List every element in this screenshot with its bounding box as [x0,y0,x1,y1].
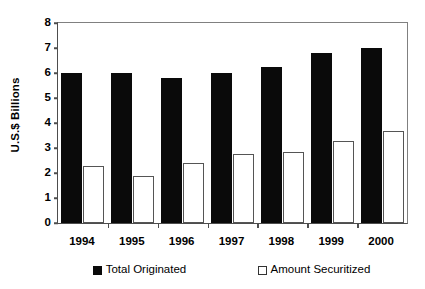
bar-1994-series-1 [83,166,104,224]
x-axis-tick-labels: 1994199519961997199819992000 [57,232,406,250]
bar-group [208,23,258,223]
bars-layer [58,23,407,223]
x-axis-tick-mark [357,223,359,228]
bar-group [108,23,158,223]
y-axis-tick-label: 4 [0,117,58,129]
y-axis-tick-label: 6 [0,67,58,79]
y-axis-tick-label: 5 [0,92,58,104]
bar-group [357,23,407,223]
x-axis-tick-mark [208,223,210,228]
y-axis-tick-label: 2 [0,167,58,179]
x-axis-tick-mark [307,223,309,228]
x-axis-tick-label: 1999 [306,232,356,250]
bar-1997-series-0 [211,73,232,223]
bar-group [307,23,357,223]
x-axis-tick-label: 1995 [107,232,157,250]
y-axis-tick-label: 0 [0,217,58,229]
bar-1997-series-1 [233,154,254,223]
bar-group [58,23,108,223]
x-axis-tick-label: 2000 [356,232,406,250]
x-axis-tick-label: 1994 [57,232,107,250]
x-axis-tick-label: 1998 [256,232,306,250]
x-axis-tick-mark [158,223,160,228]
bar-1999-series-1 [333,141,354,224]
legend-item-label: Total Originated [106,264,187,276]
legend-item: Amount Securitized [258,264,371,276]
bar-group [257,23,307,223]
x-axis-tick-mark [108,223,110,228]
x-axis-tick-label: 1997 [207,232,257,250]
bar-chart-figure: U.S.$ Billions 012345678 199419951996199… [0,0,425,289]
bar-1995-series-0 [111,73,132,223]
bar-1994-series-0 [61,73,82,223]
y-axis-tick-label: 8 [0,17,58,29]
bar-1998-series-0 [261,67,282,223]
outlined-square-icon [258,266,267,275]
filled-square-icon [93,266,102,275]
legend-item: Total Originated [93,264,187,276]
bar-1995-series-1 [133,176,154,224]
bar-group [158,23,208,223]
y-axis-title-text: U.S.$ Billions [9,78,21,153]
bar-2000-series-0 [361,48,382,223]
y-axis-tick-label: 7 [0,42,58,54]
y-axis-tick-label: 1 [0,192,58,204]
bar-1999-series-0 [311,53,332,223]
bar-1996-series-0 [161,78,182,223]
x-axis-tick-mark [257,223,259,228]
plot-area: 012345678 [57,22,408,224]
legend-item-label: Amount Securitized [271,264,371,276]
x-axis-tick-label: 1996 [157,232,207,250]
chart-legend: Total OriginatedAmount Securitized [57,260,406,280]
y-axis-tick-label: 3 [0,142,58,154]
bar-1998-series-1 [283,152,304,223]
bar-2000-series-1 [383,131,404,224]
bar-1996-series-1 [183,163,204,223]
